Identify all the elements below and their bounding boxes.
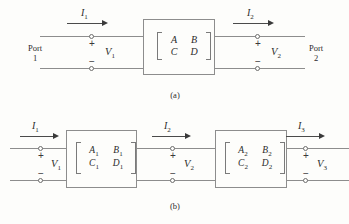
abcd-matrix-b1: A1 B1 C1 D1 <box>76 142 136 174</box>
wire-b-seg3-top <box>287 148 349 149</box>
polarity-b3-minus: − <box>303 169 309 179</box>
current-arrow-b-i3 <box>286 133 326 140</box>
polarity-b1-minus: − <box>38 169 44 179</box>
label-b-current-2: I2 <box>164 121 171 134</box>
polarity-a-left-plus: + <box>89 39 95 49</box>
polarity-b2-plus: + <box>170 151 176 161</box>
two-port-network-figure: A B C D I1 I2 + − V1 + − <box>0 0 349 224</box>
matrix-cell-d1: D1 <box>106 158 130 171</box>
wire-b-seg2-top <box>137 148 215 149</box>
label-b-voltage-1: V1 <box>51 159 61 172</box>
label-a-current-2: I2 <box>247 8 254 21</box>
caption-a: (a) <box>155 90 195 100</box>
polarity-b2-minus: − <box>170 169 176 179</box>
abcd-matrix-a: A B C D <box>157 32 211 60</box>
label-b-current-3: I3 <box>298 121 305 134</box>
matrix-cell-c: C <box>164 46 184 58</box>
matrix-cell-b: B <box>184 34 204 46</box>
port-label-2: Port 2 <box>300 44 332 64</box>
polarity-a-right-minus: − <box>255 57 261 67</box>
current-arrow-a-i2 <box>233 20 275 27</box>
port-label-1-line2: 1 <box>19 54 51 64</box>
wire-b-seg2-bottom <box>137 180 215 181</box>
bracket-right-icon <box>131 142 136 174</box>
matrix-cell-d: D <box>184 46 204 58</box>
polarity-b3-plus: + <box>303 151 309 161</box>
polarity-a-right-plus: + <box>255 39 261 49</box>
label-a-current-1: I1 <box>81 8 88 21</box>
matrix-cell-b1: B1 <box>106 145 130 158</box>
label-b-voltage-3: V3 <box>317 159 327 172</box>
port-label-2-line2: 2 <box>300 54 332 64</box>
caption-b: (b) <box>155 201 195 211</box>
abcd-matrix-b2: A2 B2 C2 D2 <box>225 142 285 174</box>
current-arrow-b-i2 <box>152 133 192 140</box>
bracket-right-icon <box>206 32 211 60</box>
wire-a-right-bottom <box>215 68 305 69</box>
polarity-b1-plus: + <box>38 151 44 161</box>
label-a-voltage-2: V2 <box>271 47 281 60</box>
matrix-cell-b2: B2 <box>255 145 279 158</box>
matrix-cell-a1: A1 <box>82 145 106 158</box>
matrix-cell-a2: A2 <box>231 145 255 158</box>
label-b-voltage-2: V2 <box>184 159 194 172</box>
current-arrow-a-i1 <box>67 20 109 27</box>
bracket-right-icon <box>280 142 285 174</box>
matrix-cell-a: A <box>164 34 184 46</box>
label-a-voltage-1: V1 <box>105 47 115 60</box>
port-label-1: Port 1 <box>19 44 51 64</box>
matrix-cell-c2: C2 <box>231 158 255 171</box>
polarity-a-left-minus: − <box>89 57 95 67</box>
current-arrow-b-i1 <box>20 133 60 140</box>
matrix-cell-c1: C1 <box>82 158 106 171</box>
wire-b-seg3-bottom <box>287 180 349 181</box>
label-b-current-1: I1 <box>32 121 39 134</box>
matrix-cell-d2: D2 <box>255 158 279 171</box>
